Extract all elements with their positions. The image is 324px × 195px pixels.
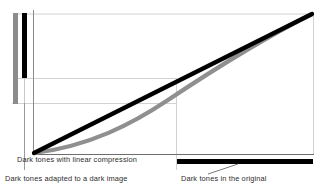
caption-adapted-dark: Dark tones adapted to a dark image [5, 174, 128, 183]
figure-background [0, 0, 324, 195]
caption-original: Dark tones in the original [181, 174, 267, 183]
range-bar-adapted-dark [13, 13, 18, 104]
range-bar-linear-compression [22, 13, 27, 78]
range-bar-original [177, 159, 313, 164]
caption-linear-compression: Dark tones with linear compression [17, 155, 137, 164]
tone-curve-figure [0, 0, 324, 195]
